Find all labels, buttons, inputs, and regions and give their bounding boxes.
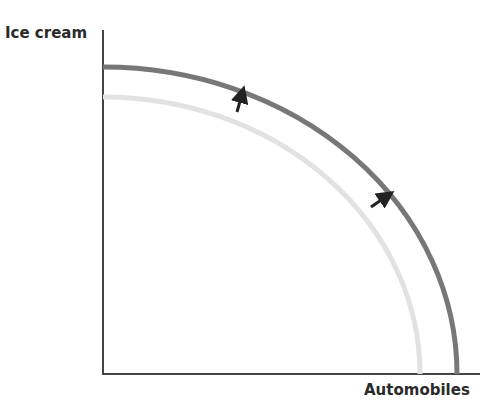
ppf-chart bbox=[0, 0, 490, 408]
shifted-ppf-curve bbox=[103, 67, 457, 374]
shift-arrow-icon bbox=[237, 94, 242, 112]
shift-arrow-icon bbox=[371, 196, 387, 207]
original-ppf-curve bbox=[103, 97, 420, 374]
